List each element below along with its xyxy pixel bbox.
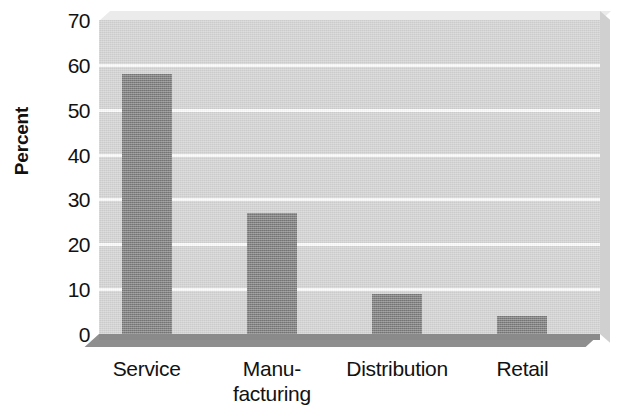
y-axis-tick-label: 40 <box>46 144 90 165</box>
x-axis-tick-label-line: facturing <box>233 381 311 406</box>
plot-area <box>99 20 600 334</box>
x-axis-tick-label: Distribution <box>346 356 447 381</box>
bar <box>497 316 547 334</box>
x-axis-tick-label-line: Retail <box>496 357 548 380</box>
gridline <box>99 198 600 201</box>
x-axis-tick-label-line: Manu- <box>243 357 301 380</box>
plot-texture-overlay <box>99 20 600 334</box>
x-axis-tick-label: Retail <box>496 356 548 381</box>
plot-3d-block <box>99 20 600 350</box>
gridline <box>99 154 600 157</box>
gridline <box>99 243 600 246</box>
y-axis-tick-label: 30 <box>46 189 90 210</box>
y-axis-tick-label: 70 <box>46 10 90 31</box>
bar-chart-figure: Percent 010203040506070 ServiceManu-fact… <box>0 0 639 419</box>
y-axis-tick-label: 20 <box>46 234 90 255</box>
bar <box>247 213 297 334</box>
gridline <box>99 109 600 112</box>
y-axis-tick-labels: 010203040506070 <box>46 0 90 419</box>
y-axis-tick-label: 10 <box>46 279 90 300</box>
plot-right-bevel <box>600 11 610 343</box>
y-axis-tick-label: 50 <box>46 99 90 120</box>
x-axis-tick-labels: ServiceManu-facturingDistributionRetail <box>99 356 600 416</box>
gridline <box>99 64 600 67</box>
plot-floor-front <box>99 334 600 340</box>
y-axis-tick-label: 60 <box>46 54 90 75</box>
x-axis-tick-label-line: Distribution <box>346 357 447 380</box>
x-axis-tick-label: Manu-facturing <box>233 356 311 406</box>
x-axis-tick-label: Service <box>113 356 181 381</box>
x-axis-tick-label-line: Service <box>113 357 181 380</box>
y-axis-title: Percent <box>9 91 35 191</box>
bar <box>372 294 422 334</box>
bar <box>122 74 172 334</box>
y-axis-tick-label: 0 <box>46 324 90 345</box>
gridline <box>99 288 600 291</box>
